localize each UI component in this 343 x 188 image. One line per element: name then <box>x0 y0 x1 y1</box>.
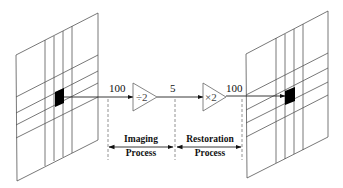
restoration-label-line2: Process <box>195 148 226 158</box>
diagram-canvas: 100 5 100 ÷2 ×2 Imaging Process Restorat… <box>0 0 343 188</box>
imaging-label-line1: Imaging <box>124 134 158 144</box>
intermediate-value-label: 5 <box>170 82 176 94</box>
restoration-label-line1: Restoration <box>186 134 234 144</box>
input-value-label: 100 <box>109 82 126 94</box>
multiply-symbol: ×2 <box>205 91 217 103</box>
right-image-grid <box>246 11 328 178</box>
output-value-label: 100 <box>226 82 243 94</box>
imaging-label-line2: Process <box>126 148 157 158</box>
divide-symbol: ÷2 <box>136 91 148 103</box>
